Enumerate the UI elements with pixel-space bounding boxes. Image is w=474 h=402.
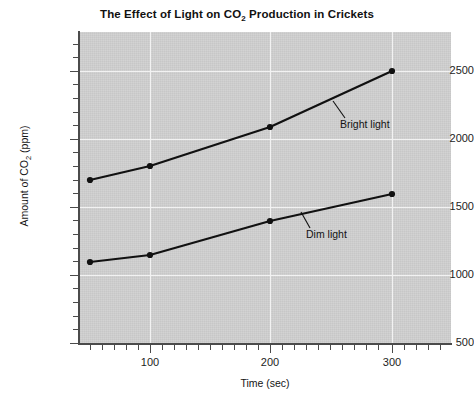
x-minor-tick [378, 344, 379, 350]
gridline-y-1500 [79, 207, 451, 208]
x-minor-tick [330, 344, 331, 350]
y-minor-tick [73, 57, 79, 58]
y-minor-tick [73, 261, 79, 262]
series-annotation-bright-light: Bright light [340, 118, 390, 130]
y-minor-tick [73, 302, 79, 303]
x-minor-tick [174, 344, 175, 350]
x-minor-tick [258, 344, 259, 350]
x-axis-title: Time (sec) [79, 377, 451, 389]
gridline-x-100 [150, 32, 151, 343]
x-minor-tick [210, 344, 211, 350]
x-tick-label-100: 100 [120, 356, 180, 368]
x-tick-label-200: 200 [240, 356, 300, 368]
x-axis-line [78, 343, 452, 345]
x-minor-tick [222, 344, 223, 350]
x-minor-tick [90, 344, 91, 350]
x-minor-tick [234, 344, 235, 350]
chart-figure: The Effect of Light on CO2 Production in… [0, 0, 474, 402]
y-minor-tick [73, 152, 79, 153]
x-minor-tick [282, 344, 283, 350]
gridline-x-300 [392, 32, 393, 343]
x-tick-300 [392, 344, 393, 353]
series-annotation-dim-light: Dim light [306, 228, 347, 240]
y-axis-title-subscript: 2 [24, 156, 33, 160]
plot-texture-overlay [79, 32, 451, 343]
y-minor-tick [73, 288, 79, 289]
x-minor-tick [162, 344, 163, 350]
chart-title-post: Production in Crickets [246, 8, 374, 20]
y-minor-tick [73, 44, 79, 45]
chart-title: The Effect of Light on CO2 Production in… [0, 8, 474, 20]
x-minor-tick [126, 344, 127, 350]
x-minor-tick [318, 344, 319, 350]
y-minor-tick [73, 220, 79, 221]
y-minor-tick [73, 316, 79, 317]
y-tick-1000 [70, 275, 79, 276]
x-tick-200 [270, 344, 271, 353]
y-minor-tick [73, 193, 79, 194]
x-tick-100 [150, 344, 151, 353]
x-minor-tick [294, 344, 295, 350]
chart-title-subscript: 2 [241, 14, 246, 23]
y-axis-title-post: (ppm) [18, 125, 30, 155]
x-minor-tick [342, 344, 343, 350]
y-tick-2000 [70, 139, 79, 140]
x-tick-label-300: 300 [362, 356, 422, 368]
x-minor-tick [416, 344, 417, 350]
x-minor-tick [354, 344, 355, 350]
y-tick-label-1000: 1000 [412, 268, 474, 280]
gridline-y-2500 [79, 71, 451, 72]
y-axis-title-pre: Amount of CO [18, 160, 30, 227]
gridline-y-1000 [79, 275, 451, 276]
y-tick-label-2000: 2000 [412, 132, 474, 144]
x-minor-tick [440, 344, 441, 350]
y-minor-tick [73, 166, 79, 167]
y-minor-tick [73, 329, 79, 330]
x-minor-tick [246, 344, 247, 350]
y-minor-tick [73, 98, 79, 99]
y-minor-tick [73, 125, 79, 126]
y-axis-title: Amount of CO2 (ppm) [18, 86, 30, 266]
y-tick-2500 [70, 71, 79, 72]
chart-title-pre: The Effect of Light on CO [100, 8, 241, 20]
y-tick-label-2500: 2500 [412, 64, 474, 76]
y-tick-1500 [70, 207, 79, 208]
y-tick-label-1500: 1500 [412, 200, 474, 212]
y-axis-line [78, 31, 80, 344]
y-tick-label-500: 500 [412, 336, 474, 348]
x-minor-tick [138, 344, 139, 350]
x-minor-tick [198, 344, 199, 350]
x-minor-tick [102, 344, 103, 350]
y-minor-tick [73, 84, 79, 85]
x-minor-tick [404, 344, 405, 350]
gridline-x-200 [270, 32, 271, 343]
x-minor-tick [428, 344, 429, 350]
y-minor-tick [73, 180, 79, 181]
plot-area [79, 32, 451, 343]
gridline-y-2000 [79, 139, 451, 140]
y-tick-500 [70, 343, 79, 344]
y-minor-tick [73, 234, 79, 235]
y-minor-tick [73, 112, 79, 113]
x-minor-tick [186, 344, 187, 350]
y-minor-tick [73, 248, 79, 249]
x-minor-tick [366, 344, 367, 350]
x-minor-tick [306, 344, 307, 350]
x-minor-tick [114, 344, 115, 350]
